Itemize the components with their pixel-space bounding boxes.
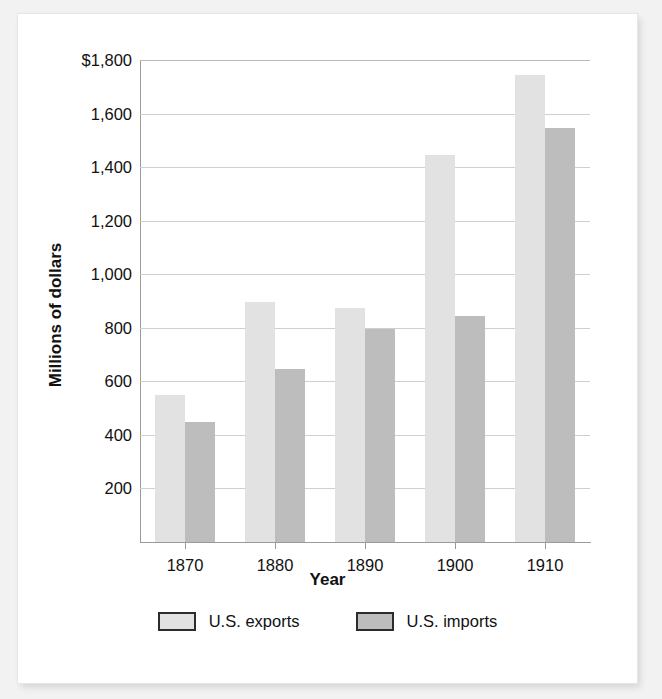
y-tick-label-1600: 1,600 — [32, 104, 132, 123]
chart-card: Millions of dollars 2004006008001,0001,2… — [18, 14, 637, 683]
bar-1890-imports — [365, 329, 395, 542]
y-tick-label-400: 400 — [32, 425, 132, 444]
imports-swatch-icon — [356, 612, 394, 631]
x-tick-1900 — [455, 542, 456, 549]
legend-entry-imports: U.S. imports — [356, 612, 498, 631]
y-tick-label-1200: 1,200 — [32, 211, 132, 230]
y-tick-label-1800: $1,800 — [32, 51, 132, 70]
bar-1910-exports — [515, 75, 545, 542]
x-tick-1880 — [275, 542, 276, 549]
legend-label-exports: U.S. exports — [209, 612, 300, 631]
chart-legend: U.S. exportsU.S. imports — [18, 612, 637, 631]
plot-area: 18701880189019001910 — [140, 60, 590, 542]
legend-entry-exports: U.S. exports — [158, 612, 300, 631]
bar-1880-imports — [275, 369, 305, 542]
y-tick-label-1000: 1,000 — [32, 265, 132, 284]
y-tick-label-1400: 1,400 — [32, 158, 132, 177]
page-background: Millions of dollars 2004006008001,0001,2… — [0, 0, 662, 699]
bar-1900-imports — [455, 316, 485, 542]
y-tick-label-200: 200 — [32, 479, 132, 498]
legend-label-imports: U.S. imports — [407, 612, 498, 631]
exports-swatch-icon — [158, 612, 196, 631]
x-tick-1870 — [185, 542, 186, 549]
x-tick-1890 — [365, 542, 366, 549]
bar-1900-exports — [425, 155, 455, 542]
x-tick-1910 — [545, 542, 546, 549]
bar-1890-exports — [335, 308, 365, 542]
bar-1870-exports — [155, 395, 185, 542]
bar-1870-imports — [185, 422, 215, 543]
y-axis-tick-labels: 2004006008001,0001,2001,4001,600$1,800 — [26, 60, 132, 542]
x-axis-title: Year — [18, 570, 637, 590]
bar-1880-exports — [245, 302, 275, 542]
bar-chart: Millions of dollars 2004006008001,0001,2… — [18, 14, 637, 683]
y-tick-label-800: 800 — [32, 318, 132, 337]
gridline-1800 — [140, 60, 590, 61]
y-tick-label-600: 600 — [32, 372, 132, 391]
bar-1910-imports — [545, 128, 575, 542]
